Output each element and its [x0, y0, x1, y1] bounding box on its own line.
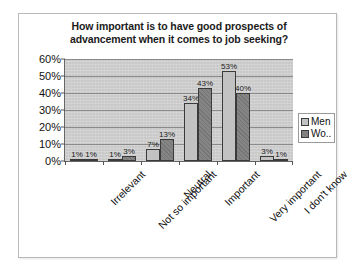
- bar-men[interactable]: 7%: [146, 149, 160, 161]
- x-axis-tick-mark: [179, 161, 180, 165]
- chart-frame: How important is to have good prospects …: [18, 13, 337, 258]
- bars-row: 53%40%: [217, 59, 255, 161]
- x-axis-tick-mark: [292, 161, 293, 165]
- bar-data-label: 43%: [197, 79, 213, 88]
- bar-group: 53%40%Very important: [217, 59, 255, 161]
- bar-data-label: 3%: [123, 147, 135, 156]
- chart-title-line-2: advancement when it comes to job seeking…: [33, 33, 325, 46]
- chart-title-line-1: How important is to have good prospects …: [33, 20, 325, 33]
- bars-row: 1%1%: [65, 59, 103, 161]
- bar-group: 3%1%I don't know: [255, 59, 293, 161]
- y-axis-tick-label: 10%: [39, 138, 61, 150]
- legend-label: Men: [311, 116, 330, 128]
- bar-group: 34%43%Important: [179, 59, 217, 161]
- x-axis-category-label: Irrelevant: [108, 168, 147, 207]
- bar-data-label: 53%: [221, 62, 237, 71]
- bar-data-label: 13%: [159, 130, 175, 139]
- bars-row: 1%3%: [103, 59, 141, 161]
- bar-group: 7%13%Neutral: [141, 59, 179, 161]
- y-axis-tick-label: 0%: [45, 155, 61, 167]
- bar-women[interactable]: 40%: [236, 93, 250, 161]
- bar-men[interactable]: 1%: [70, 159, 84, 161]
- plot-area: 60%50%40%30%20%10%0% 1%1%Irrelevant1%3%N…: [64, 59, 293, 162]
- legend-item[interactable]: Men: [301, 116, 331, 128]
- bar-men[interactable]: 34%: [184, 103, 198, 161]
- x-axis-tick-mark: [217, 161, 218, 165]
- chart-title: How important is to have good prospects …: [33, 20, 325, 45]
- bar-data-label: 1%: [275, 150, 287, 159]
- bar-data-label: 34%: [183, 94, 199, 103]
- bar-data-label: 1%: [85, 150, 97, 159]
- bar-women[interactable]: 43%: [198, 88, 212, 161]
- x-axis-tick-mark: [255, 161, 256, 165]
- bars-row: 7%13%: [141, 59, 179, 161]
- bar-men[interactable]: 3%: [260, 156, 274, 161]
- bar-data-label: 40%: [235, 84, 251, 93]
- bar-group: 1%3%Not so important: [103, 59, 141, 161]
- bar-data-label: 3%: [261, 147, 273, 156]
- y-axis-tick-label: 40%: [39, 87, 61, 99]
- bar-men[interactable]: 53%: [222, 71, 236, 161]
- x-axis-tick-mark: [141, 161, 142, 165]
- bars-row: 3%1%: [255, 59, 293, 161]
- legend-swatch-men: [301, 118, 309, 126]
- bars-row: 34%43%: [179, 59, 217, 161]
- bar-men[interactable]: 1%: [108, 159, 122, 161]
- chart-legend[interactable]: MenWo..: [298, 113, 335, 143]
- bar-women[interactable]: 3%: [122, 156, 136, 161]
- y-axis-tick-label: 60%: [39, 53, 61, 65]
- bar-women[interactable]: 1%: [84, 159, 98, 161]
- bar-data-label: 1%: [71, 150, 83, 159]
- legend-swatch-women: [301, 130, 309, 138]
- bar-data-label: 7%: [147, 140, 159, 149]
- x-axis-tick-mark: [103, 161, 104, 165]
- y-axis-tick-label: 30%: [39, 104, 61, 116]
- legend-label: Wo..: [311, 128, 331, 140]
- x-axis-category-label: Important: [222, 168, 262, 208]
- x-axis-tick-mark: [65, 161, 66, 165]
- bar-group: 1%1%Irrelevant: [65, 59, 103, 161]
- legend-item[interactable]: Wo..: [301, 128, 331, 140]
- bar-women[interactable]: 1%: [274, 159, 288, 161]
- y-axis-tick-label: 50%: [39, 70, 61, 82]
- bar-data-label: 1%: [109, 150, 121, 159]
- bar-women[interactable]: 13%: [160, 139, 174, 161]
- y-axis-tick-label: 20%: [39, 121, 61, 133]
